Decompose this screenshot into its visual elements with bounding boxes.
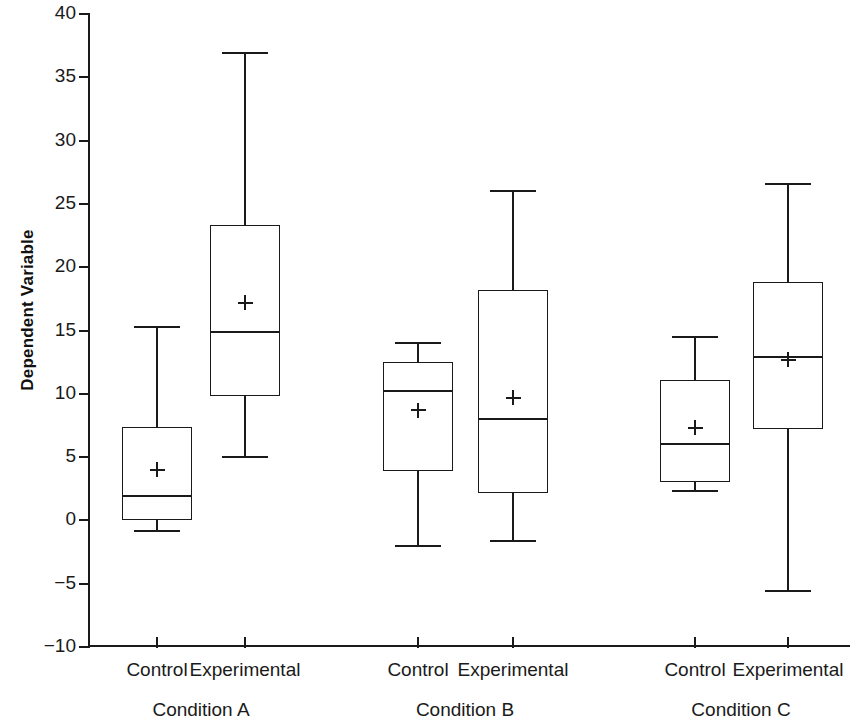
- y-tick-label: 25: [18, 193, 76, 212]
- x-tick-label-experimental: Experimental: [698, 659, 863, 681]
- lower-whisker-stem: [787, 429, 789, 591]
- upper-whisker-cap: [765, 183, 811, 185]
- y-tick-label: −5: [18, 573, 76, 592]
- y-tick-label: 5: [18, 446, 76, 465]
- x-tick-label-experimental: Experimental: [423, 659, 603, 681]
- y-tick-label: 35: [18, 66, 76, 85]
- y-tick-label: 15: [18, 320, 76, 339]
- x-tick-label-experimental: Experimental: [155, 659, 335, 681]
- group-label: Condition A: [91, 699, 311, 721]
- box-plot: [88, 14, 850, 647]
- y-tick-label: 20: [18, 256, 76, 275]
- y-tick-label: 40: [18, 3, 76, 22]
- y-tick-label: 30: [18, 130, 76, 149]
- upper-whisker-stem: [787, 184, 789, 283]
- y-tick-label: 10: [18, 383, 76, 402]
- y-tick-label: 0: [18, 509, 76, 528]
- lower-whisker-cap: [765, 590, 811, 592]
- plot-area: [88, 14, 850, 647]
- box-plot-figure: Dependent Variable −10−50510152025303540…: [0, 0, 863, 727]
- group-label: Condition B: [355, 699, 575, 721]
- group-label: Condition C: [631, 699, 851, 721]
- y-tick-label: −10: [18, 636, 76, 655]
- mean-marker-icon: [781, 352, 796, 367]
